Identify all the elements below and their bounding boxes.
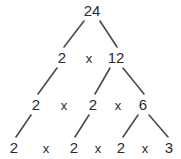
tree-edge: [16, 115, 31, 137]
tree-node-2-l3-1: 2: [89, 97, 97, 112]
tree-edge: [123, 68, 144, 94]
multiplication-operator: x: [86, 52, 93, 65]
tree-edge: [38, 68, 57, 94]
tree-edge: [64, 21, 84, 47]
multiplication-operator: x: [61, 99, 68, 112]
tree-node-12-l2-1: 12: [108, 50, 125, 65]
tree-edge: [123, 115, 138, 137]
tree-node-2-l3-0: 2: [32, 97, 40, 112]
multiplication-operator: x: [115, 99, 122, 112]
multiplication-operator: x: [43, 142, 50, 155]
multiplication-operator: x: [142, 142, 149, 155]
tree-edges-layer: [0, 0, 181, 159]
factor-tree-diagram: 24212x226xx2223xxx: [0, 0, 181, 159]
tree-edge: [75, 115, 89, 137]
tree-node-2-l4-1: 2: [70, 140, 78, 155]
tree-edge: [100, 21, 117, 47]
tree-edge: [149, 115, 168, 137]
multiplication-operator: x: [95, 142, 102, 155]
tree-node-6-l3-2: 6: [139, 97, 147, 112]
tree-node-2-l4-2: 2: [117, 140, 125, 155]
tree-node-2-l4-0: 2: [10, 140, 18, 155]
tree-node-2-l2-0: 2: [58, 50, 66, 65]
tree-node-3-l4-3: 3: [165, 140, 173, 155]
tree-edge: [95, 68, 110, 94]
tree-node-24-l1-0: 24: [84, 3, 101, 18]
